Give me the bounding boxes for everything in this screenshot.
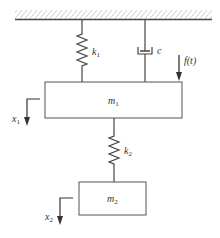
label-x2: x2 bbox=[44, 211, 53, 224]
label-force: f(t) bbox=[184, 55, 197, 67]
force-arrow bbox=[176, 55, 182, 81]
displacement-x2-arrow bbox=[57, 198, 73, 225]
damper-c bbox=[138, 20, 152, 83]
label-c: c bbox=[157, 45, 162, 56]
label-k1: k1 bbox=[92, 46, 100, 59]
spring-k2 bbox=[109, 118, 119, 182]
displacement-x1-arrow bbox=[24, 99, 40, 126]
label-x1: x1 bbox=[11, 113, 20, 126]
label-k2: k2 bbox=[124, 145, 132, 158]
diagram-canvas: k1 c f(t) m1 x1 k2 m2 x2 bbox=[0, 0, 220, 238]
ground-support bbox=[15, 10, 212, 20]
spring-k1 bbox=[77, 20, 87, 83]
